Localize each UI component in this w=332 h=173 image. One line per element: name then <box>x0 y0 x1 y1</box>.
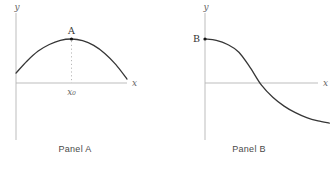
panel-b-plot: xyB <box>166 0 332 143</box>
function-curve <box>205 39 329 123</box>
panel-a-caption: Panel A <box>0 143 158 155</box>
point-marker-a <box>70 37 73 40</box>
y-axis-label: y <box>13 2 20 12</box>
y-axis-label: y <box>202 2 209 12</box>
point-marker-b <box>203 37 206 40</box>
panel-a-plot: xyAx₀ <box>0 0 166 143</box>
x-axis-label: x <box>323 78 328 88</box>
panel-b: xyB Panel B <box>166 0 332 173</box>
x0-tick-label: x₀ <box>67 87 76 97</box>
point-label-a: A <box>67 25 75 36</box>
two-panel-figure: xyAx₀ Panel A xyB Panel B <box>0 0 332 173</box>
x-axis-label: x <box>132 78 137 88</box>
panel-a: xyAx₀ Panel A <box>0 0 166 173</box>
point-label-b: B <box>193 33 200 44</box>
panel-b-caption: Panel B <box>166 143 332 155</box>
